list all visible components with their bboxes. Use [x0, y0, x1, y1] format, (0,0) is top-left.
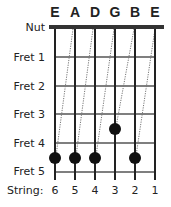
string-number-4: 4 — [88, 184, 102, 197]
string-number-5: 5 — [68, 184, 82, 197]
string-number-6: 6 — [48, 184, 62, 197]
fret-lines — [54, 57, 156, 172]
fretboard — [0, 0, 171, 207]
string-number-1: 1 — [148, 184, 162, 197]
nut-bar — [49, 25, 164, 29]
string-label: String: — [7, 184, 44, 197]
string-number-3: 3 — [108, 184, 122, 197]
string-number-2: 2 — [128, 184, 142, 197]
tuning-lines — [56, 29, 155, 156]
